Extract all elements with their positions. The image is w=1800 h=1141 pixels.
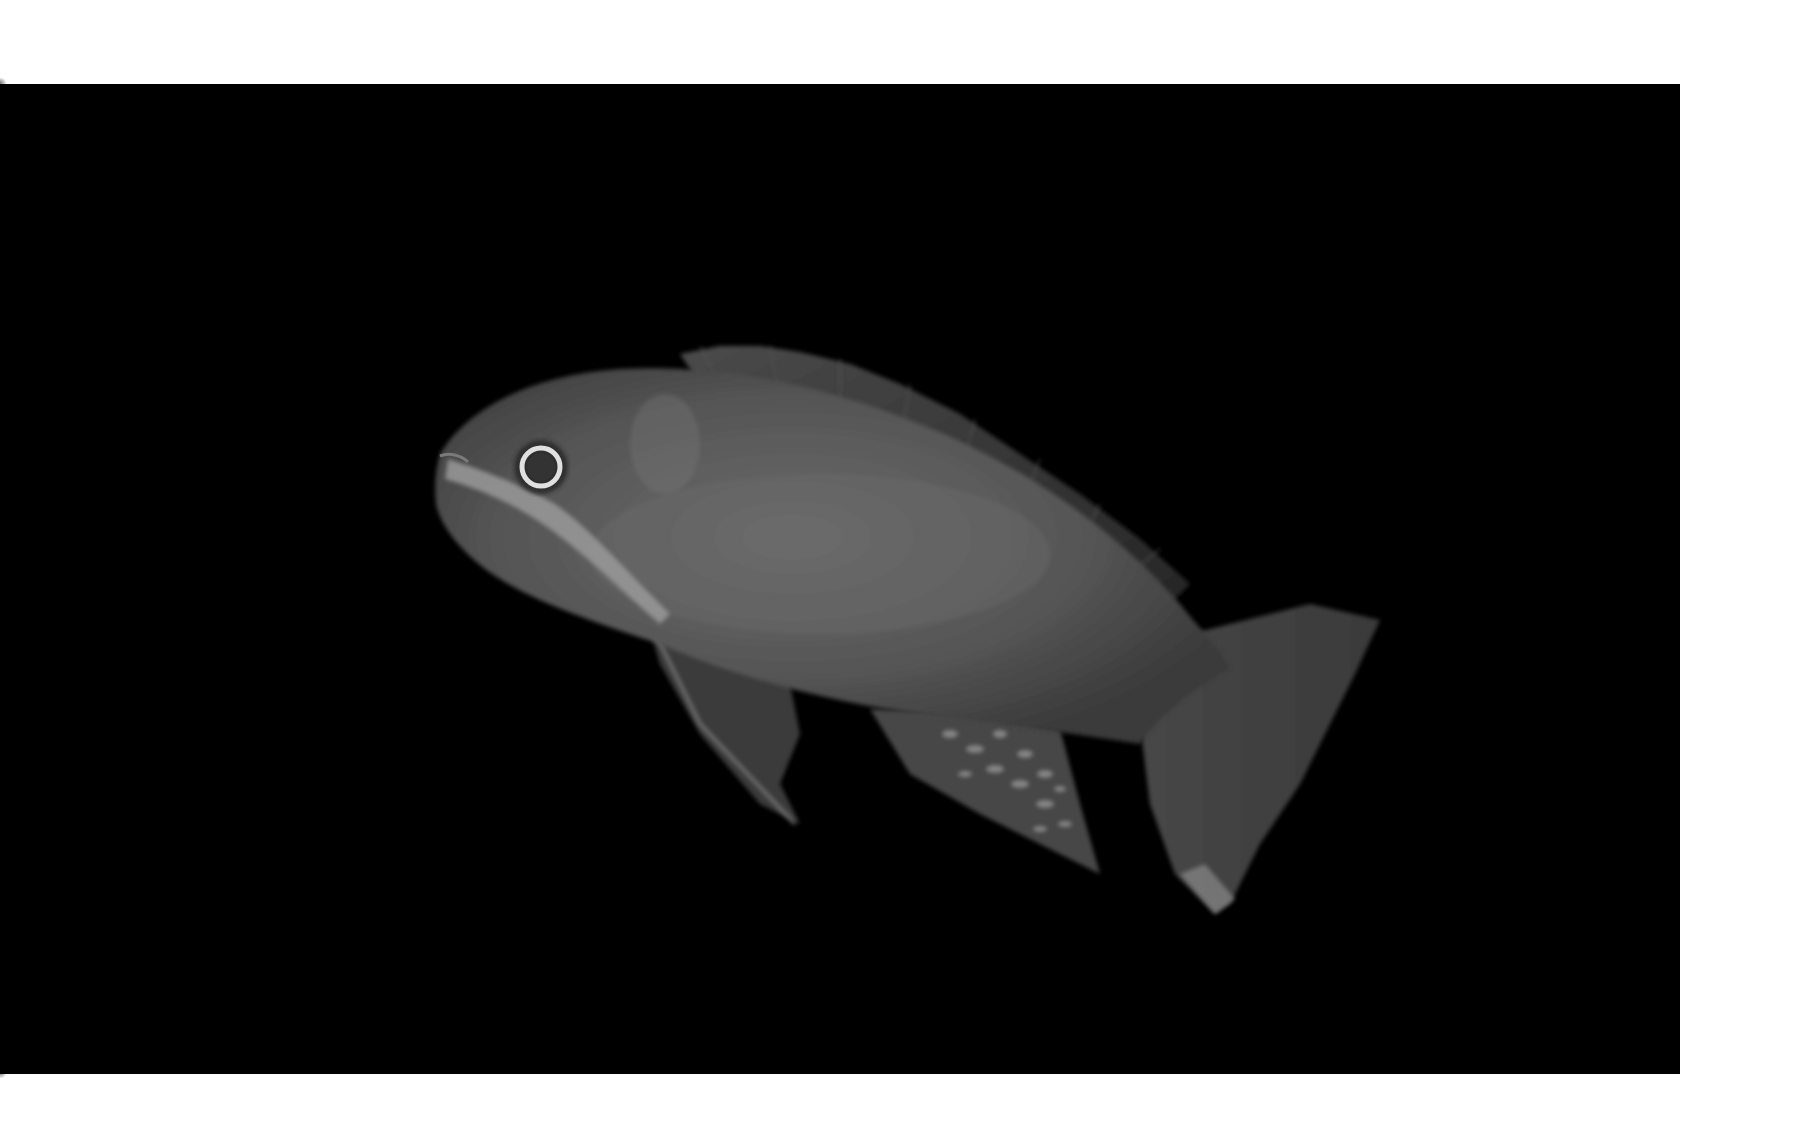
fish-illustration — [0, 84, 1680, 1074]
fish-photo — [0, 84, 1680, 1074]
fish-eye — [514, 440, 568, 494]
page: Grayscale studio photograph of a fish sw… — [0, 0, 1800, 1141]
anal-fin — [870, 709, 1100, 874]
